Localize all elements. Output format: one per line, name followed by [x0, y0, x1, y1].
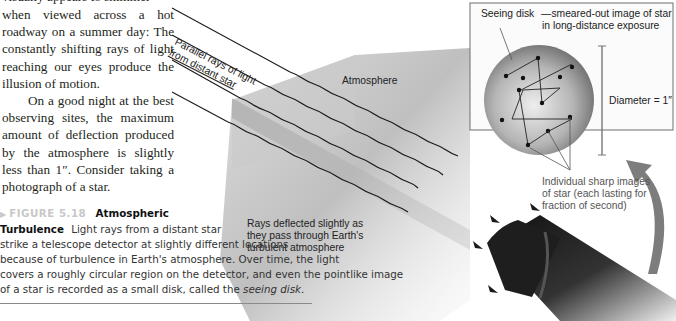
- figure-title-2: Turbulence: [0, 223, 64, 235]
- caption-rule: [0, 303, 312, 304]
- telescope: [487, 215, 676, 321]
- label-diameter: Diameter = 1″: [609, 95, 672, 107]
- label-individual-images: Individual sharp images of star (each la…: [542, 176, 650, 212]
- figure-title: Atmospheric: [96, 207, 169, 219]
- figure-number: FIGURE 5.18: [9, 207, 86, 219]
- label-seeing-disk: Seeing disk —smeared-out image of star i…: [481, 8, 672, 32]
- label-atmosphere: Atmosphere: [342, 75, 398, 87]
- figure-caption: ▶FIGURE 5.18 Atmospheric Turbulence Ligh…: [0, 206, 315, 297]
- figure-arrow-icon: ▶: [0, 210, 6, 219]
